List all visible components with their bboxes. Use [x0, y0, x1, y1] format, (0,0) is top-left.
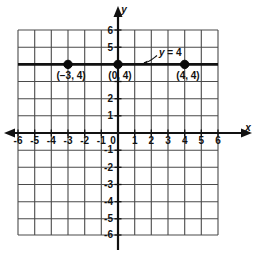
- point-label-0-4: (0, 4): [108, 70, 131, 81]
- x-tick-label: 6: [215, 135, 221, 146]
- point-0-4: [114, 60, 122, 68]
- y-tick-label: -6: [104, 229, 113, 240]
- y-axis-label: y: [120, 4, 127, 15]
- y-tick-label: 6: [107, 25, 113, 36]
- x-tick-label: -4: [47, 135, 56, 146]
- coordinate-plane-svg: -6 -5 -4 -3 -2 -1 0 1 2 3 4 5 6 6 5 2 1 …: [0, 0, 258, 255]
- x-axis-label: x: [244, 122, 251, 133]
- equation-label-rest: = 4: [165, 47, 182, 58]
- y-tick-label: 5: [107, 42, 113, 53]
- x-tick-label: 5: [199, 135, 205, 146]
- x-tick-label: 1: [132, 135, 138, 146]
- x-tick-label: -3: [64, 135, 73, 146]
- equation-label: y = 4: [158, 47, 182, 58]
- x-tick-label: -5: [30, 135, 39, 146]
- point-4-4: [181, 60, 189, 68]
- coordinate-plane-figure: -6 -5 -4 -3 -2 -1 0 1 2 3 4 5 6 6 5 2 1 …: [0, 0, 258, 255]
- x-tick-label: -2: [80, 135, 89, 146]
- x-tick-label: -6: [14, 135, 23, 146]
- point-label-minus3-4: (−3, 4): [56, 70, 85, 81]
- point-minus3-4: [64, 60, 72, 68]
- y-axis: [114, 6, 123, 250]
- point-label-4-4: (4, 4): [176, 70, 199, 81]
- x-tick-label: 4: [182, 135, 188, 146]
- y-tick-label: -5: [104, 213, 113, 224]
- y-tick-label: -4: [104, 196, 113, 207]
- y-tick-label: -2: [104, 162, 113, 173]
- x-tick-label: 2: [149, 135, 155, 146]
- y-tick-label: -1: [104, 144, 113, 155]
- y-tick-label: -3: [104, 179, 113, 190]
- x-tick-label: 3: [165, 135, 171, 146]
- y-tick-label: 1: [107, 110, 113, 121]
- y-tick-label: 2: [107, 93, 113, 104]
